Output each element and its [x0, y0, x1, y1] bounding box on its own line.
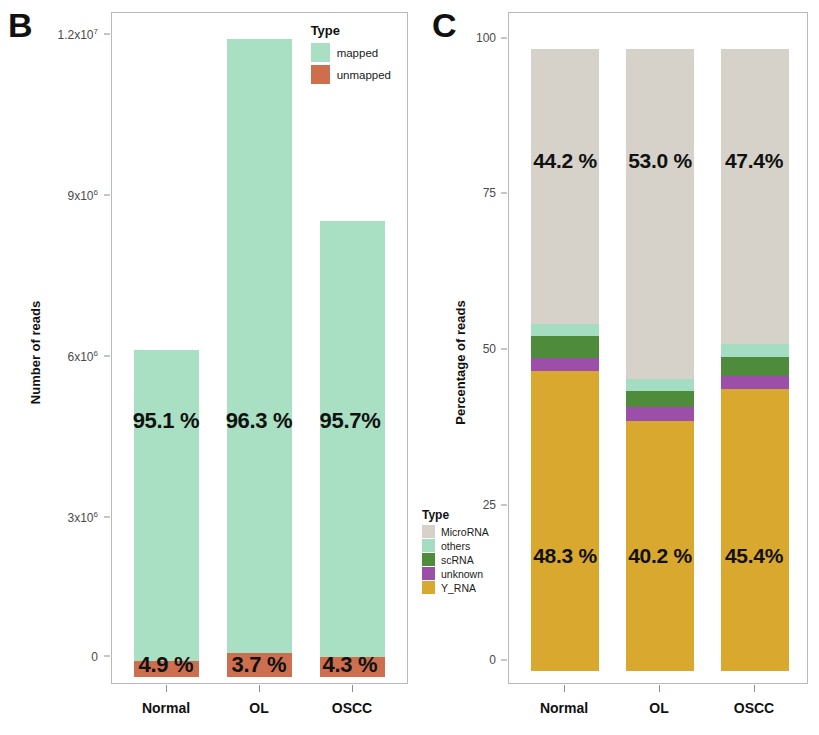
panel-b-legend: Type mapped unmapped	[311, 23, 391, 87]
panel-b-bar-normal-mapped	[134, 350, 199, 661]
panel-c-label-yrna-ol: 40.2 %	[628, 544, 692, 568]
panel-b-ytick-label-1: 9x106	[28, 188, 98, 203]
panel-c-bar-normal-yrna	[531, 371, 599, 671]
panel-c-ytick-label-50: 50	[460, 342, 496, 356]
panel-b-bar-normal[interactable]	[134, 350, 199, 677]
panel-c-ytick-label-100: 100	[460, 31, 496, 45]
panel-b-ytick-mark-0	[104, 34, 110, 35]
panel-b-label-unmapped-normal: 4.9 %	[139, 652, 194, 678]
panel-b: B Number of reads 1.2x107 9x106 6x106 3x…	[0, 0, 420, 735]
panel-b-label-mapped-oscc: 95.7%	[320, 408, 381, 434]
panel-c-xtick-mark-2	[754, 685, 755, 692]
panel-b-label-mapped-normal: 95.1 %	[133, 408, 200, 434]
others-swatch-icon	[422, 539, 435, 552]
panel-b-ytick-label-3: 3x106	[28, 510, 98, 525]
figure-container: B Number of reads 1.2x107 9x106 6x106 3x…	[0, 0, 819, 735]
mapped-swatch-icon	[311, 43, 330, 62]
panel-b-legend-title: Type	[311, 23, 391, 38]
panel-c-legend-item-microrna[interactable]: MicroRNA	[422, 525, 489, 538]
yrna-swatch-icon	[422, 581, 435, 594]
scrna-swatch-icon	[422, 553, 435, 566]
unknown-swatch-icon	[422, 567, 435, 580]
panel-c-legend: Type MicroRNA others scRNA unknown Y_RNA	[422, 508, 489, 595]
panel-b-label-unmapped-oscc: 4.3 %	[323, 652, 378, 678]
panel-c-label-yrna-oscc: 45.4%	[725, 544, 783, 568]
panel-c-xtick-mark-1	[659, 685, 660, 692]
panel-c-bar-oscc-unknown	[721, 376, 789, 389]
panel-c-bar-ol[interactable]	[626, 49, 694, 671]
panel-c-bar-ol-unknown	[626, 407, 694, 421]
panel-c-bar-ol-scrna	[626, 391, 694, 407]
panel-b-legend-item-mapped[interactable]: mapped	[311, 43, 391, 62]
panel-b-bar-oscc-mapped	[320, 221, 385, 657]
unmapped-swatch-icon	[311, 65, 330, 84]
panel-c-legend-label-unknown: unknown	[441, 568, 483, 580]
panel-b-xtick-mark-0	[166, 685, 167, 692]
panel-b-ytick-mark-4	[104, 656, 110, 657]
panel-b-legend-item-unmapped[interactable]: unmapped	[311, 65, 391, 84]
panel-c-legend-label-others: others	[441, 540, 470, 552]
panel-c-plot-area: 44.2 % 53.0 % 47.4% 48.3 % 40.2 % 45.4%	[508, 12, 808, 684]
panel-c-xtick-label-normal: Normal	[540, 700, 588, 716]
panel-b-ytick-label-0: 1.2x107	[28, 27, 98, 42]
panel-c-bar-normal-unknown	[531, 358, 599, 370]
panel-c-label-yrna-normal: 48.3 %	[533, 544, 597, 568]
panel-b-plot-area: 95.1 % 96.3 % 95.7% 4.9 % 3.7 % 4.3 % Ty…	[111, 12, 408, 684]
panel-c-ytick-mark-0	[501, 660, 507, 661]
panel-c-bar-normal-microrna	[531, 49, 599, 324]
panel-c-letter: C	[432, 8, 457, 42]
panel-c-bar-oscc-microrna	[721, 49, 789, 344]
panel-b-legend-label-mapped: mapped	[337, 47, 379, 59]
panel-b-bar-ol[interactable]	[227, 39, 292, 677]
panel-b-xtick-label-normal: Normal	[142, 700, 190, 716]
panel-b-ytick-mark-3	[104, 517, 110, 518]
panel-c-ytick-mark-100	[501, 38, 507, 39]
panel-c-bar-oscc-yrna	[721, 389, 789, 671]
panel-c-label-microrna-normal: 44.2 %	[533, 149, 597, 173]
panel-c-bar-oscc-scrna	[721, 357, 789, 376]
panel-b-bar-ol-mapped	[227, 39, 292, 653]
panel-b-bar-oscc[interactable]	[320, 221, 385, 677]
panel-c-xtick-mark-0	[564, 685, 565, 692]
panel-b-xtick-label-oscc: OSCC	[332, 700, 372, 716]
panel-c-label-microrna-ol: 53.0 %	[628, 149, 692, 173]
panel-c-bar-normal-scrna	[531, 336, 599, 358]
panel-c-ytick-label-0: 0	[460, 653, 496, 667]
panel-c-label-microrna-oscc: 47.4%	[725, 149, 783, 173]
panel-c-legend-item-scrna[interactable]: scRNA	[422, 553, 489, 566]
panel-c-y-axis-title: Percentage of reads	[453, 288, 468, 438]
panel-c-xtick-label-oscc: OSCC	[734, 700, 774, 716]
panel-c-legend-item-yrna[interactable]: Y_RNA	[422, 581, 489, 594]
panel-b-ytick-label-4: 0	[28, 649, 98, 664]
panel-b-label-unmapped-ol: 3.7 %	[232, 652, 287, 678]
panel-c-bar-ol-others	[626, 379, 694, 391]
panel-b-ytick-mark-1	[104, 195, 110, 196]
panel-c-ytick-mark-50	[501, 349, 507, 350]
panel-b-xtick-label-ol: OL	[249, 700, 268, 716]
panel-b-xtick-mark-2	[352, 685, 353, 692]
panel-c-bar-ol-microrna	[626, 49, 694, 379]
panel-c-legend-item-unknown[interactable]: unknown	[422, 567, 489, 580]
panel-b-ytick-label-2: 6x106	[28, 349, 98, 364]
panel-c-legend-label-scrna: scRNA	[441, 554, 474, 566]
panel-c-legend-item-others[interactable]: others	[422, 539, 489, 552]
panel-c-legend-label-microrna: MicroRNA	[441, 526, 489, 538]
panel-c-xtick-label-ol: OL	[649, 700, 668, 716]
panel-c-ytick-label-75: 75	[460, 186, 496, 200]
panel-c-bar-normal-others	[531, 324, 599, 336]
microrna-swatch-icon	[422, 525, 435, 538]
panel-b-ytick-mark-2	[104, 356, 110, 357]
panel-c-legend-title: Type	[422, 508, 489, 522]
panel-b-label-mapped-ol: 96.3 %	[226, 408, 293, 434]
panel-c: C Percentage of reads 100 75 50 25 0 Typ…	[420, 0, 819, 735]
panel-b-xtick-mark-1	[259, 685, 260, 692]
panel-c-ytick-mark-25	[501, 505, 507, 506]
panel-c-legend-label-yrna: Y_RNA	[441, 582, 476, 594]
panel-c-bar-oscc[interactable]	[721, 49, 789, 671]
panel-c-bar-oscc-others	[721, 344, 789, 357]
panel-c-bar-normal[interactable]	[531, 49, 599, 671]
panel-b-legend-label-unmapped: unmapped	[337, 69, 391, 81]
panel-c-ytick-mark-75	[501, 193, 507, 194]
